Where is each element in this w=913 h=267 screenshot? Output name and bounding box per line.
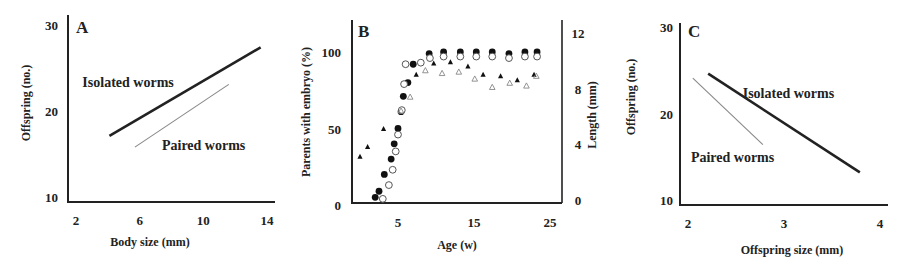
- data-point-open-circle: [473, 53, 480, 60]
- data-point-open-triangle: [439, 70, 445, 75]
- y-tick-label: 10: [45, 190, 58, 205]
- data-point-filled-triangle: [465, 63, 470, 68]
- x-tick-label: 15: [468, 215, 482, 230]
- series-label: Paired worms: [162, 138, 246, 153]
- data-point-filled-circle: [391, 140, 398, 147]
- x-tick-label: 25: [544, 215, 558, 230]
- y-tick-label: 0: [335, 198, 342, 213]
- x-tick-label: 5: [395, 215, 402, 230]
- y-axis-title: Offspring (no.): [19, 65, 33, 142]
- y2-tick-label: 0: [575, 193, 582, 208]
- x-tick-label: 6: [136, 213, 143, 228]
- y-tick-label: 10: [660, 193, 673, 208]
- panel-b: B5152505010004812Age (w)Parents with emb…: [299, 20, 599, 252]
- data-point-filled-triangle: [357, 154, 362, 159]
- data-point-filled-triangle: [414, 72, 419, 77]
- y-tick-label: 20: [660, 107, 673, 122]
- data-point-open-circle: [534, 53, 541, 60]
- data-point-filled-triangle: [365, 144, 370, 149]
- data-point-open-triangle: [456, 69, 462, 74]
- data-point-filled-circle: [376, 188, 383, 195]
- data-point-filled-circle: [381, 171, 388, 178]
- series-label: Paired worms: [691, 150, 775, 165]
- y-tick-label: 20: [45, 104, 58, 119]
- data-point-open-triangle: [524, 83, 530, 88]
- figure-canvas: A261014102030Body size (mm)Offspring (no…: [0, 0, 913, 267]
- x-axis-title: Age (w): [437, 238, 477, 252]
- x-tick-label: 14: [261, 213, 275, 228]
- panel-letter: C: [688, 22, 700, 41]
- series-label: Isolated worms: [743, 86, 835, 101]
- data-point-open-triangle: [407, 94, 413, 99]
- y2-tick-label: 4: [575, 137, 582, 152]
- data-point-open-circle: [440, 53, 447, 60]
- panel-letter: A: [76, 18, 89, 37]
- x-tick-label: 4: [877, 216, 884, 231]
- y-tick-label: 100: [322, 45, 342, 60]
- y-tick-label: 30: [660, 20, 673, 35]
- x-tick-label: 10: [197, 213, 210, 228]
- y2-tick-label: 12: [572, 26, 585, 41]
- data-point-open-triangle: [489, 84, 495, 89]
- data-point-filled-triangle: [448, 59, 453, 64]
- data-point-open-circle: [402, 61, 409, 68]
- x-axis-title: Offspring size (mm): [741, 243, 844, 257]
- data-point-open-triangle: [472, 76, 478, 81]
- series-label: Isolated worms: [82, 75, 174, 90]
- data-point-open-circle: [417, 59, 424, 66]
- data-point-filled-triangle: [515, 77, 520, 82]
- data-point-filled-triangle: [498, 73, 503, 78]
- data-point-open-circle: [489, 53, 496, 60]
- x-tick-label: 3: [781, 216, 788, 231]
- figure: A261014102030Body size (mm)Offspring (no…: [0, 0, 913, 267]
- panel-c: C234102030Offspring size (mm)Offspring (…: [624, 20, 888, 257]
- data-point-filled-circle: [410, 61, 417, 68]
- data-point-open-circle: [506, 55, 513, 62]
- data-point-filled-circle: [372, 194, 379, 201]
- data-point-open-circle: [427, 55, 434, 62]
- data-point-filled-circle: [400, 93, 407, 100]
- data-point-open-circle: [401, 81, 408, 88]
- data-point-open-triangle: [423, 68, 429, 73]
- y2-tick-label: 8: [575, 82, 582, 97]
- x-tick-label: 2: [685, 216, 692, 231]
- x-tick-label: 2: [73, 213, 80, 228]
- x-axis-title: Body size (mm): [110, 235, 189, 249]
- data-point-filled-triangle: [381, 126, 386, 131]
- data-point-open-circle: [385, 182, 392, 189]
- y-axis-title: Parents with embryo (%): [299, 47, 313, 177]
- data-point-open-triangle: [507, 80, 513, 85]
- y-tick-label: 50: [328, 122, 341, 137]
- y-axis-title: Offspring (no.): [624, 59, 638, 136]
- data-point-open-circle: [457, 53, 464, 60]
- data-point-filled-triangle: [481, 72, 486, 77]
- panel-letter: B: [358, 22, 369, 41]
- data-point-open-circle: [395, 131, 402, 138]
- data-point-open-circle: [392, 148, 399, 155]
- data-point-open-circle: [522, 53, 529, 60]
- panel-a: A261014102030Body size (mm)Offspring (no…: [19, 15, 275, 249]
- y2-axis-title: Length (mm): [585, 81, 599, 149]
- y-tick-label: 30: [45, 18, 58, 33]
- data-point-filled-circle: [388, 156, 395, 163]
- series-line-isolated: [109, 47, 260, 136]
- data-point-open-circle: [389, 166, 396, 173]
- data-point-open-circle: [379, 195, 386, 202]
